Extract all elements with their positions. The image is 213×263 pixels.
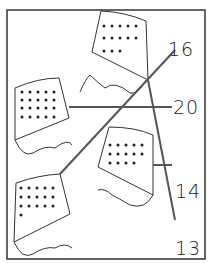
- tail-bottom: [14, 242, 72, 256]
- tail-left: [15, 140, 72, 154]
- kite-right: [98, 127, 153, 195]
- connector-13: [148, 80, 175, 220]
- dots-left: [21, 91, 56, 119]
- dots-right: [109, 144, 144, 165]
- label-14: 14: [175, 180, 201, 202]
- dots-top: [103, 25, 138, 53]
- kite-bottom: [14, 174, 70, 242]
- kite-top: [92, 11, 148, 80]
- label-16: 16: [168, 38, 194, 60]
- tail-right: [98, 190, 153, 207]
- label-13: 13: [175, 237, 201, 259]
- dots-bottom: [20, 187, 55, 217]
- label-20: 20: [173, 96, 199, 118]
